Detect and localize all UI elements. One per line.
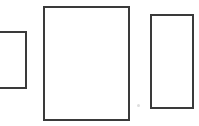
- rectangle-shape-center: [43, 6, 130, 121]
- diagram-canvas: [0, 0, 199, 126]
- rectangle-shape-left: [0, 31, 27, 89]
- rectangle-shape-right: [150, 14, 194, 109]
- scan-speck-artifact: [137, 104, 140, 107]
